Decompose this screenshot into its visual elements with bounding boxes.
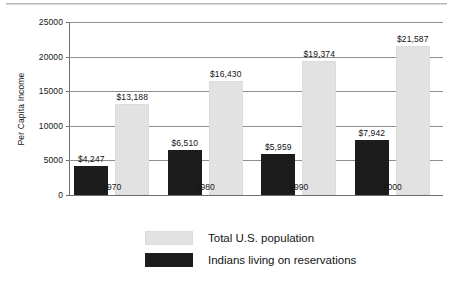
bar-value-label: $13,188	[107, 92, 157, 102]
plot-area: $4,247$13,188$6,510$16,430$5,959$19,374$…	[69, 22, 443, 196]
legend-item-label: Indians living on reservations	[208, 254, 356, 266]
bar-value-label: $4,247	[66, 154, 116, 164]
y-axis-tick-mark	[66, 160, 69, 161]
y-axis-tick-mark	[66, 22, 69, 23]
y-axis-tick-label: 5000	[3, 155, 63, 165]
light-gray-swatch-icon	[145, 231, 193, 245]
y-axis-tick-label: 20000	[3, 52, 63, 62]
y-axis-title: Per Capita Income	[16, 49, 26, 169]
y-axis-tick-label: 10000	[3, 121, 63, 131]
chart-legend: Total U.S. population Indians living on …	[145, 227, 356, 271]
legend-item-total-us-population: Total U.S. population	[145, 227, 356, 249]
bar-value-label: $21,587	[388, 34, 438, 44]
y-axis-spine	[69, 22, 70, 196]
y-axis-tick-mark	[66, 91, 69, 92]
y-axis-tick-label: 0	[3, 190, 63, 200]
bar-value-label: $5,959	[253, 142, 303, 152]
gridline	[69, 22, 443, 23]
x-axis-tick-label: 1990	[251, 182, 346, 192]
legend-item-indians-on-reservations: Indians living on reservations	[145, 249, 356, 271]
y-axis-tick-mark	[66, 57, 69, 58]
bar	[209, 81, 243, 195]
x-axis-tick-label: 1970	[64, 182, 159, 192]
y-axis-tick-label: 25000	[3, 17, 63, 27]
x-axis-tick-label: 1980	[158, 182, 253, 192]
bar-value-label: $19,374	[294, 49, 344, 59]
bar-value-label: $6,510	[160, 138, 210, 148]
y-axis-tick-mark	[66, 195, 69, 196]
y-axis-tick-mark	[66, 126, 69, 127]
x-axis-tick-label: 2000	[345, 182, 440, 192]
black-swatch-icon	[145, 253, 193, 267]
gridline	[69, 57, 443, 58]
bar-chart-figure: Per Capita Income $4,247$13,188$6,510$16…	[0, 0, 451, 282]
page-top-rule-shadow	[6, 4, 447, 5]
bar-value-label: $7,942	[347, 128, 397, 138]
bar	[302, 61, 336, 195]
x-axis-baseline	[69, 195, 443, 196]
bar-value-label: $16,430	[201, 69, 251, 79]
bar	[396, 46, 430, 195]
y-axis-tick-label: 15000	[3, 86, 63, 96]
legend-item-label: Total U.S. population	[208, 232, 314, 244]
